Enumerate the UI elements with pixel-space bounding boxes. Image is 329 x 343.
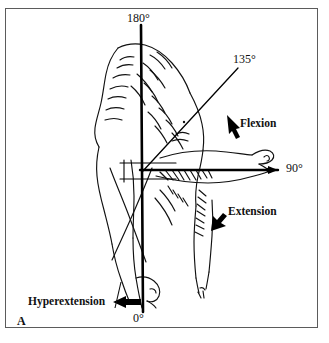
flexion-arrow-icon: [227, 115, 240, 139]
rear-hatch-5: [196, 218, 204, 223]
angle-label-90: 90°: [286, 162, 303, 174]
fur-stroke-16: [159, 108, 172, 124]
motion-label-extension: Extension: [228, 206, 277, 218]
fur-stroke-3: [113, 75, 130, 78]
angle-label-0: 0°: [133, 312, 144, 324]
limb-cross-contour-b: [112, 168, 152, 260]
fur-stroke-1: [120, 57, 134, 60]
rear-hatch-3: [197, 204, 205, 210]
limb-cross-contour-a: [110, 168, 146, 262]
upper-body-right-contour: [190, 93, 204, 150]
chest-hatch-1: [168, 186, 173, 194]
fur-stroke-6: [106, 108, 124, 110]
fur-stroke-17: [148, 112, 161, 129]
limb-range-of-motion-drawing: [0, 0, 329, 343]
rear-hatch-1: [199, 190, 206, 196]
angle-axes-group: [120, 25, 278, 312]
forelimb-hatch-4: [178, 170, 184, 180]
rear-paw-stroke-3: [200, 288, 205, 290]
motion-label-hyperextension: Hyperextension: [28, 296, 105, 308]
fur-stroke-14: [131, 86, 145, 105]
rear-hatch-2: [198, 197, 206, 203]
rear-limb-left-contour: [194, 206, 196, 278]
rear-paw-stroke-2: [203, 291, 204, 298]
rear-limb-right-contour: [209, 200, 213, 272]
fur-stroke-7: [105, 119, 122, 121]
extension-arrow-icon: [211, 213, 227, 231]
joint-marker-dot: [183, 121, 185, 123]
limb-outline-group: [95, 44, 274, 308]
fur-stroke-4: [110, 86, 128, 89]
rear-limb-lower-left: [196, 278, 199, 293]
fur-stroke-2: [117, 65, 133, 68]
forelimb-hatch-6: [190, 170, 196, 180]
figure-root: 180° 135° 90° 0° Flexion Extension Hyper…: [0, 0, 329, 343]
fur-stroke-10: [143, 63, 158, 80]
paw-upper: [252, 150, 274, 164]
rear-hatch-4: [197, 211, 205, 216]
rear-limb-lower-right: [206, 272, 209, 289]
forelimb-hatch-7: [196, 170, 201, 179]
hanging-limb-left-contour: [97, 147, 112, 244]
angle-label-180: 180°: [127, 12, 150, 24]
chest-hatch-3: [178, 194, 183, 202]
angle-label-135: 135°: [233, 53, 256, 65]
rear-hatch-7: [195, 232, 203, 236]
axis-endpoint-dot: [266, 167, 271, 172]
chest-hatch-4: [183, 198, 188, 206]
forelimb-top-contour: [160, 151, 252, 158]
diagonal-axis-135: [142, 68, 238, 172]
motion-label-flexion: Flexion: [240, 118, 276, 130]
elbow-crease-2: [172, 140, 188, 142]
chest-hatch-2: [173, 190, 178, 198]
hanging-paw-claw: [150, 289, 156, 293]
paw-claw: [264, 156, 269, 162]
panel-label: A: [17, 315, 26, 327]
vertical-axis-180-to-0: [141, 25, 143, 312]
shoulder-top-contour: [118, 44, 190, 93]
fur-stroke-15: [152, 96, 165, 113]
fur-stroke-5: [108, 97, 126, 99]
rear-hatch-6: [196, 225, 204, 229]
shoulder-left-contour: [95, 48, 118, 147]
forelimb-hatch-5: [184, 170, 190, 180]
